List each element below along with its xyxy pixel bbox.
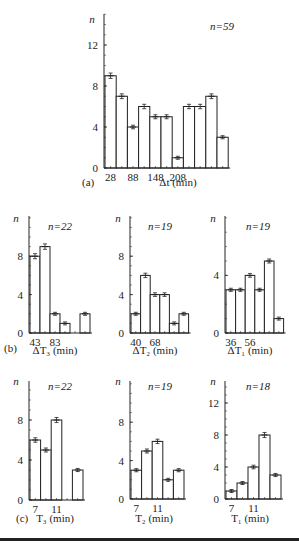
- y-tick-label: 8: [93, 80, 99, 92]
- y-tick-label: 12: [87, 39, 98, 51]
- panel-label: (b): [4, 342, 17, 355]
- histogram-bar: [264, 261, 274, 333]
- histogram-bar: [51, 420, 62, 500]
- chart-panel-b2: [130, 216, 191, 333]
- y-tick-label: 0: [18, 494, 24, 506]
- histogram-bar: [226, 290, 236, 333]
- sample-size-annotation: n=59: [210, 20, 234, 32]
- histogram-bar: [270, 475, 281, 499]
- y-tick-label: 0: [119, 327, 125, 339]
- histogram-bar: [160, 295, 170, 333]
- sample-size-annotation: n=19: [148, 380, 172, 392]
- y-tick-label: 0: [214, 327, 220, 339]
- y-tick-label: 0: [119, 493, 125, 505]
- y-tick-label: 8: [119, 416, 125, 428]
- histogram-bar: [274, 319, 284, 333]
- sample-size-annotation: n=22: [48, 220, 72, 232]
- histogram-bar: [142, 451, 153, 499]
- histogram-bar: [72, 470, 83, 500]
- histogram-bar: [236, 290, 246, 333]
- sample-size-annotation: n=19: [246, 220, 270, 232]
- histogram-bar: [255, 290, 265, 333]
- histogram-bar: [50, 314, 60, 333]
- histogram-bar: [127, 127, 138, 168]
- histogram-bar: [152, 441, 163, 499]
- histogram-bar: [195, 107, 206, 169]
- y-tick-label: 0: [18, 327, 24, 339]
- x-tick-label: 88: [128, 171, 140, 183]
- histogram-bar: [245, 275, 255, 333]
- x-axis-label: T₃ (min): [36, 512, 74, 525]
- chart-panel-a: [104, 14, 230, 168]
- sample-size-annotation: n=19: [148, 220, 172, 232]
- chart-panel-c3: [225, 381, 283, 499]
- y-tick-label: 0: [214, 493, 220, 505]
- histogram-bar: [141, 275, 151, 333]
- y-tick-label: 4: [93, 121, 99, 133]
- histogram-bar: [179, 314, 189, 333]
- y-tick-label: 8: [119, 250, 125, 262]
- chart-panel-b1: [29, 216, 92, 333]
- y-tick-label: 4: [214, 461, 220, 473]
- x-axis-label: ΔT₃ (min): [33, 344, 78, 357]
- y-axis-label: n: [210, 375, 216, 387]
- y-tick-label: 8: [18, 414, 24, 426]
- histogram-bar: [163, 480, 174, 499]
- y-axis-label: n: [13, 212, 19, 224]
- x-axis-label: ΔT₂ (min): [133, 344, 178, 357]
- histogram-bar: [183, 107, 194, 169]
- y-tick-label: 4: [119, 289, 125, 301]
- histogram-bar: [41, 450, 52, 500]
- y-axis-label: n: [89, 13, 95, 25]
- histogram-bar: [161, 117, 172, 168]
- y-axis-label: n: [210, 212, 216, 224]
- panel-label: (c): [16, 512, 29, 525]
- histogram-bar: [248, 467, 259, 499]
- y-tick-label: 8: [214, 429, 220, 441]
- bottom-rule: [0, 538, 299, 541]
- panel-label: (a): [82, 176, 95, 189]
- x-tick-label: 28: [105, 171, 117, 183]
- histogram-bar: [139, 107, 150, 169]
- histogram-bar: [131, 470, 142, 499]
- chart-panel-b3: [225, 216, 286, 333]
- histogram-bar: [206, 96, 217, 168]
- y-tick-label: 4: [119, 455, 125, 467]
- y-tick-label: 8: [18, 250, 24, 262]
- histogram-bar: [237, 483, 248, 499]
- histogram-bar: [131, 314, 141, 333]
- y-tick-label: 0: [93, 162, 99, 174]
- histogram-bar: [30, 440, 41, 500]
- x-axis-label: ΔT₁ (min): [228, 344, 273, 357]
- x-axis-label: Δt (min): [159, 176, 197, 189]
- figure-canvas: 048122888148208nn=59Δt (min)(a)0484383nn…: [0, 0, 299, 545]
- chart-panel-c1: [29, 381, 85, 500]
- y-tick-label: 4: [18, 454, 24, 466]
- sample-size-annotation: n=18: [246, 380, 270, 392]
- histogram-bar: [217, 137, 228, 168]
- y-axis-label: n: [115, 375, 121, 387]
- histogram-bar: [105, 76, 116, 168]
- histogram-bar: [150, 117, 161, 168]
- y-axis-label: n: [115, 212, 121, 224]
- histogram-bar: [40, 247, 50, 333]
- histogram-bar: [150, 295, 160, 333]
- histogram-bar: [173, 470, 184, 499]
- x-axis-label: T₁ (min): [231, 512, 269, 525]
- y-axis-label: n: [13, 375, 19, 387]
- histogram-bar: [80, 314, 90, 333]
- y-tick-label: 12: [208, 397, 219, 409]
- y-tick-label: 4: [18, 289, 24, 301]
- y-tick-label: 4: [214, 269, 220, 281]
- chart-panel-c2: [130, 381, 186, 499]
- histogram-bar: [259, 435, 270, 499]
- histogram-bar: [116, 96, 127, 168]
- x-axis-label: T₂ (min): [135, 512, 173, 525]
- sample-size-annotation: n=22: [48, 380, 72, 392]
